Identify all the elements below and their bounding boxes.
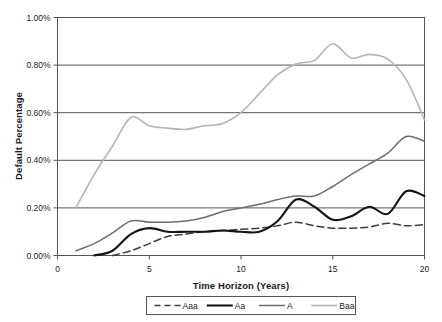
x-tick-label-1: 5 (147, 264, 152, 274)
y-tick-label-5: 1.00% (26, 13, 51, 23)
x-axis-label: Time Horizon (Years) (193, 280, 289, 291)
x-tick-label-4: 20 (420, 264, 430, 274)
x-tick-label-0: 0 (55, 264, 60, 274)
x-tick-label-2: 10 (236, 264, 246, 274)
legend-label-aa: Aa (235, 301, 246, 311)
y-tick-label-3: 0.60% (26, 108, 51, 118)
x-tick-label-3: 15 (328, 264, 338, 274)
y-tick-label-1: 0.20% (26, 203, 51, 213)
legend-label-a: A (287, 301, 293, 311)
chart-legend: AaaAaABaa (147, 297, 356, 315)
default-percentage-line-chart: 0.00%0.20%0.40%0.60%0.80%1.00% 05101520 … (0, 0, 442, 322)
chart-canvas: 0.00%0.20%0.40%0.60%0.80%1.00% 05101520 … (0, 0, 442, 322)
y-tick-label-4: 0.80% (26, 60, 51, 70)
legend-label-baa: Baa (339, 301, 354, 311)
y-tick-label-2: 0.40% (26, 155, 51, 165)
y-tick-label-0: 0.00% (26, 251, 51, 261)
y-axis-label: Default Percentage (13, 92, 24, 180)
legend-label-aaa: Aaa (183, 301, 198, 311)
